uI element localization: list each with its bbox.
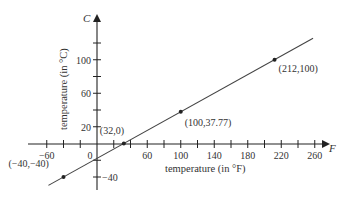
y-axis-letter: C xyxy=(83,12,91,24)
x-tick-label: 220 xyxy=(274,150,289,161)
x-axis-letter: F xyxy=(328,142,336,154)
x-tick-labels: −60060100140180220260 xyxy=(39,150,322,161)
y-tick-label: 100 xyxy=(76,55,91,66)
point-label: (212,100) xyxy=(279,63,318,75)
y-tick-label: 60 xyxy=(81,88,91,99)
x-tick-label: 0 xyxy=(88,150,93,161)
x-tick-label: 180 xyxy=(240,150,255,161)
y-tick-label: −40 xyxy=(102,172,118,183)
data-point xyxy=(179,110,183,114)
x-tick-label: 60 xyxy=(142,150,152,161)
x-tick-label: 260 xyxy=(307,150,322,161)
x-tick-label: 140 xyxy=(207,150,222,161)
chart: −60060100140180220260 2060100−40 (−40,−4… xyxy=(0,0,354,199)
data-point xyxy=(273,58,277,62)
point-annotations: (−40,−40)(32,0)(100,37.77)(212,100) xyxy=(9,63,318,170)
y-tick-label: 20 xyxy=(81,122,91,133)
point-label: (−40,−40) xyxy=(9,158,49,170)
x-axis-title: temperature (in °F) xyxy=(165,163,246,175)
data-point xyxy=(122,142,126,146)
y-axis-title: temperature (in °C) xyxy=(58,48,70,130)
data-point xyxy=(62,175,66,179)
point-label: (100,37.77) xyxy=(185,117,232,129)
x-tick-label: 100 xyxy=(173,150,188,161)
point-label: (32,0) xyxy=(100,125,124,137)
